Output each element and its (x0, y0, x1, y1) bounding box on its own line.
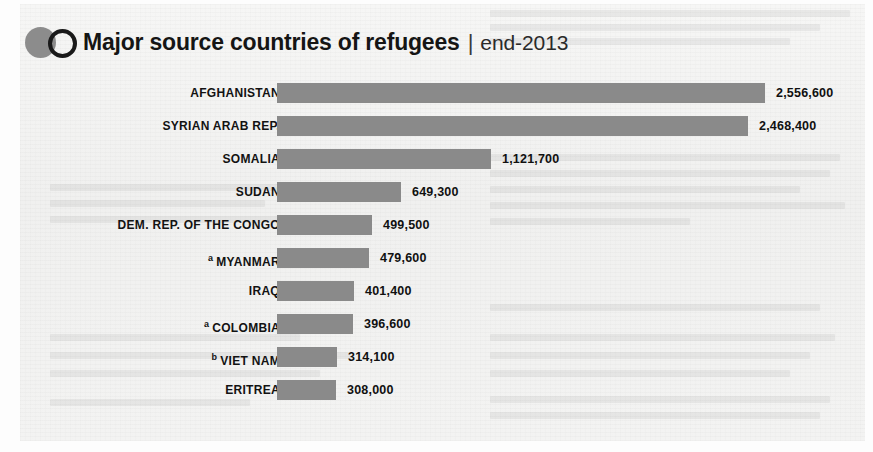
bar-chart: AFGHANISTAN2,556,600SYRIAN ARAB REP.2,46… (20, 82, 865, 412)
scanned-page-panel: Major source countries of refugees | end… (20, 4, 865, 441)
bar-value-label: 314,100 (348, 346, 395, 368)
footnote-marker: a (208, 253, 213, 263)
figure-header: Major source countries of refugees | end… (25, 22, 568, 62)
bar-category-label: aCOLOMBIA (204, 313, 280, 335)
bar (277, 281, 354, 301)
bar-category-text: COLOMBIA (212, 321, 280, 335)
chart-row: bVIET NAM314,100 (20, 346, 865, 379)
bar-category-label: AFGHANISTAN (190, 82, 280, 104)
bar (277, 314, 353, 334)
chart-row: aMYANMAR479,600 (20, 247, 865, 280)
bar-value-label: 308,000 (347, 379, 394, 401)
bar-value-label: 396,600 (364, 313, 411, 335)
bar-value-label: 401,400 (365, 280, 412, 302)
chart-row: SYRIAN ARAB REP.2,468,400 (20, 115, 865, 148)
title-separator: | (468, 30, 474, 56)
bar-category-text: SUDAN (236, 185, 280, 199)
unhcr-circles-logo (25, 25, 83, 59)
bar (277, 347, 337, 367)
bar-category-text: IRAQ (249, 284, 280, 298)
bar-category-text: ERITREA (225, 383, 280, 397)
bar (277, 149, 491, 169)
figure-content: Major source countries of refugees | end… (20, 4, 865, 441)
bar (277, 248, 369, 268)
bar-category-label: SOMALIA (223, 148, 280, 170)
chart-row: aCOLOMBIA396,600 (20, 313, 865, 346)
bar-value-label: 649,300 (412, 181, 459, 203)
bar-category-label: aMYANMAR (208, 247, 280, 269)
footnote-marker: a (204, 319, 209, 329)
figure-title: Major source countries of refugees | end… (83, 29, 568, 56)
chart-row: IRAQ401,400 (20, 280, 865, 313)
bar-value-label: 1,121,700 (502, 148, 559, 170)
bar-category-text: DEM. REP. OF THE CONGO (118, 218, 280, 232)
bar-category-label: DEM. REP. OF THE CONGO (118, 214, 280, 236)
bar-value-label: 2,468,400 (759, 115, 816, 137)
bar-category-text: AFGHANISTAN (190, 86, 280, 100)
chart-row: SOMALIA1,121,700 (20, 148, 865, 181)
bar-category-label: bVIET NAM (211, 346, 280, 368)
figure-page: Major source countries of refugees | end… (0, 0, 873, 452)
bar-category-label: SUDAN (236, 181, 280, 203)
bar-category-label: ERITREA (225, 379, 280, 401)
chart-row: AFGHANISTAN2,556,600 (20, 82, 865, 115)
figure-title-main: Major source countries of refugees (83, 29, 460, 56)
figure-title-period: end-2013 (480, 31, 568, 55)
bar-category-text: MYANMAR (216, 255, 280, 269)
bar (277, 182, 401, 202)
bar-value-label: 499,500 (383, 214, 430, 236)
chart-row: DEM. REP. OF THE CONGO499,500 (20, 214, 865, 247)
bar-category-label: SYRIAN ARAB REP. (163, 115, 281, 137)
outline-circle-icon (48, 29, 77, 58)
bar (277, 215, 372, 235)
bar-category-text: VIET NAM (220, 354, 280, 368)
bar-category-text: SYRIAN ARAB REP. (163, 119, 281, 133)
bar-value-label: 479,600 (380, 247, 427, 269)
bar-value-label: 2,556,600 (776, 82, 833, 104)
chart-row: SUDAN649,300 (20, 181, 865, 214)
bar (277, 116, 748, 136)
footnote-marker: b (211, 352, 217, 362)
bar-category-label: IRAQ (249, 280, 280, 302)
bar-category-text: SOMALIA (223, 152, 280, 166)
bar (277, 380, 336, 400)
chart-row: ERITREA308,000 (20, 379, 865, 412)
bar (277, 83, 765, 103)
